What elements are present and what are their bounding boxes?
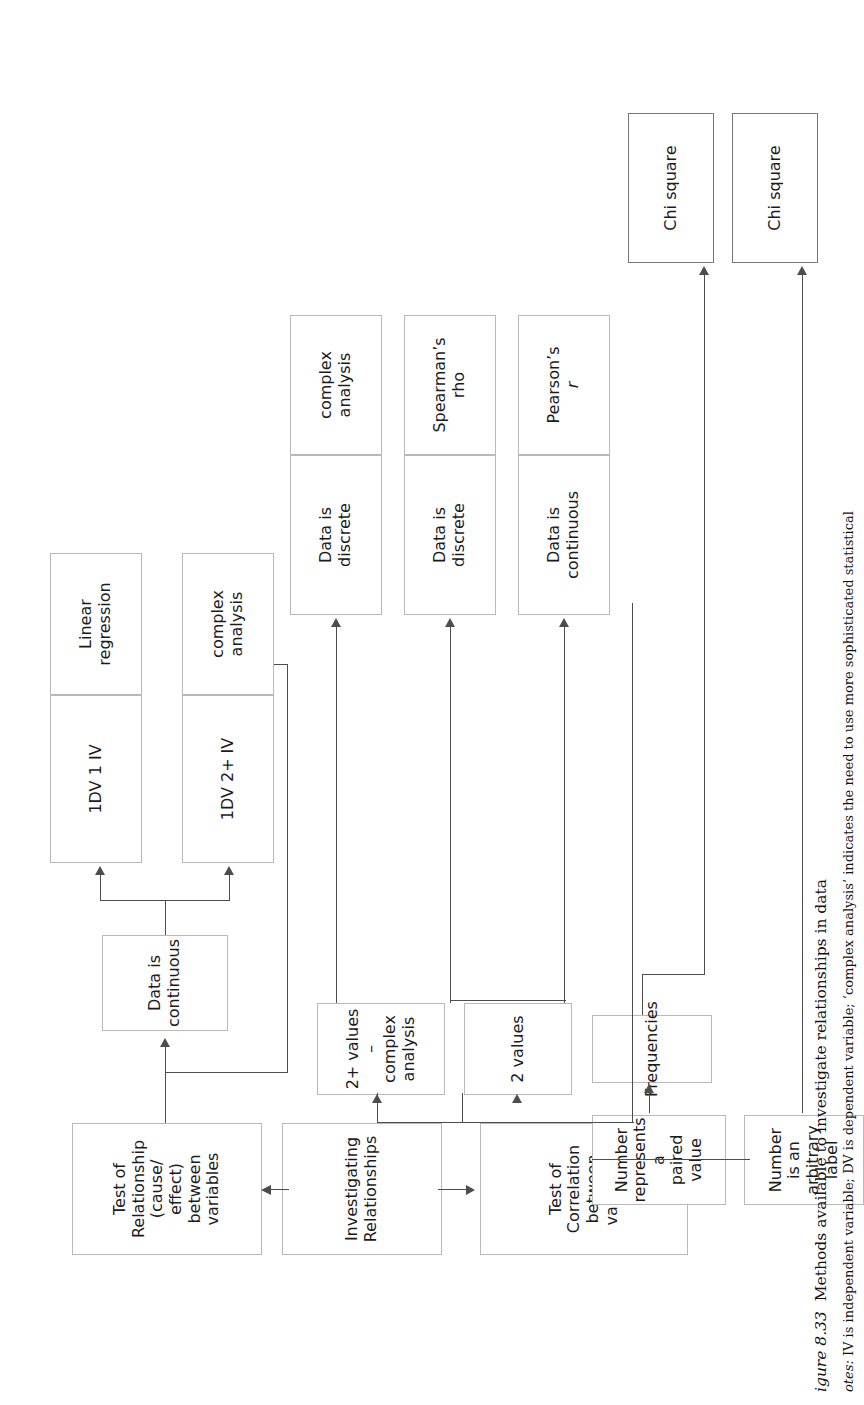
node-label: Data is continuous (146, 935, 183, 1031)
node-two-values: 2 values (464, 1003, 572, 1095)
node-1dv-2plus-iv: 1DV 2+ IV (182, 695, 274, 863)
node-chi-square-1: Chi square (628, 113, 714, 263)
pearsons-symbol: r (564, 377, 583, 392)
node-data-continuous-mid: Data is continuous (102, 935, 228, 1031)
connector-paired-riser2 (377, 1121, 467, 1122)
connector-frequencies-riser-b (642, 973, 704, 974)
node-data-continuous-2: Data is continuous (518, 455, 610, 615)
node-label: Data is discrete (431, 499, 468, 571)
node-investigating-relationships: Investigating Relationships (282, 1123, 442, 1255)
node-label: Chi square (765, 141, 784, 234)
arrowhead-right (331, 618, 341, 627)
connector-investigating-to-relationship (271, 1188, 289, 1189)
figure-caption: igure 8.33 Methods available to investig… (812, 879, 830, 1392)
figure-notes: otes: IV is independent variable; DV is … (841, 511, 856, 1392)
notes-label: otes: (841, 1360, 856, 1392)
arrowhead-right (797, 266, 807, 275)
node-linear-regression: Linear regression (50, 553, 142, 695)
node-label: 1DV 1 IV (86, 740, 105, 817)
node-test-relationship: Test of Relationship (cause/ effect) bet… (72, 1123, 262, 1255)
node-label: Data is continuous (545, 487, 582, 583)
node-frequencies: Frequencies (592, 1015, 712, 1083)
node-label: Test of Relationship (cause/ effect) bet… (111, 1135, 222, 1241)
node-pearsons-r: Pearson’s r (518, 315, 610, 455)
node-label: Linear regression (77, 578, 114, 669)
connector-frequencies-to-chi1 (642, 975, 643, 1015)
arrowhead-right (224, 866, 234, 875)
connector-paired-to-frequencies (649, 1091, 650, 1113)
connector-frequencies-run (704, 275, 705, 975)
node-data-discrete-1: Data is discrete (290, 455, 382, 615)
node-label: Data is discrete (317, 499, 354, 571)
node-label: 1DV 2+ IV (218, 733, 237, 824)
arrowhead-right (512, 1094, 522, 1103)
node-label: Pearson’s (545, 342, 564, 427)
node-data-discrete-2: Data is discrete (404, 455, 496, 615)
arrowhead-down (466, 1185, 475, 1195)
connector-correlation-bus (632, 603, 633, 1123)
connector-twoplus-to-discrete1 (336, 623, 337, 1003)
node-label: complex analysis (209, 586, 246, 662)
connector-continuous-to-a (100, 871, 101, 901)
connector-continuous-fork-bar (100, 899, 230, 900)
node-label: 2+ values – complex analysis (343, 1004, 417, 1094)
connector-continuous-to-b (229, 871, 230, 901)
node-label: complex analysis (317, 347, 354, 423)
node-label: Chi square (661, 141, 680, 234)
figure-number: igure 8.33 (812, 1311, 830, 1392)
node-complex-analysis-1: complex analysis (182, 553, 274, 695)
node-complex-analysis-2: complex analysis (290, 315, 382, 455)
node-two-plus-values: 2+ values – complex analysis (317, 1003, 445, 1095)
connector-arbitrary-to-chi2 (802, 273, 803, 1113)
node-chi-square-2: Chi square (732, 113, 818, 263)
connector-continuous-fork-stem (165, 901, 166, 935)
connector-correlation-bus-drop1 (592, 1158, 634, 1159)
connector-relationship-to-continuous (165, 1045, 166, 1123)
connector-correlation-bus-drop2 (632, 1158, 750, 1159)
arrowhead-right (644, 1084, 654, 1093)
connector-investigating-to-correlation (438, 1188, 468, 1189)
arrowhead-right (699, 266, 709, 275)
arrowhead-up (261, 1185, 271, 1195)
notes-text: IV is independent variable; DV is depend… (841, 511, 856, 1360)
node-label: Spearman’s rho (431, 333, 468, 436)
arrowhead-right (160, 1038, 170, 1047)
arrowhead-right (559, 618, 569, 627)
connector-twovalues-split (450, 999, 566, 1000)
connector-twovalues-to-continuous2 (564, 623, 565, 1003)
connector-paired-to-twovalues (462, 1093, 463, 1123)
connector-relationship-drop (165, 1071, 287, 1072)
arrowhead-right (372, 1094, 382, 1103)
node-label: 2 values (508, 1011, 527, 1086)
node-label: Investigating Relationships (343, 1131, 380, 1246)
connector-twovalues-to-discrete2 (450, 623, 451, 1003)
node-spearmans-rho: Spearman’s rho (404, 315, 496, 455)
arrowhead-right (445, 618, 455, 627)
connector-paired-riser (462, 1121, 634, 1122)
figure-title: Methods available to investigate relatio… (812, 879, 830, 1301)
connector-relationship-run (287, 665, 288, 1073)
flowchart-stage: Investigating Relationships Test of Corr… (32, 23, 732, 1263)
node-1dv-1iv: 1DV 1 IV (50, 695, 142, 863)
arrowhead-right (95, 866, 105, 875)
